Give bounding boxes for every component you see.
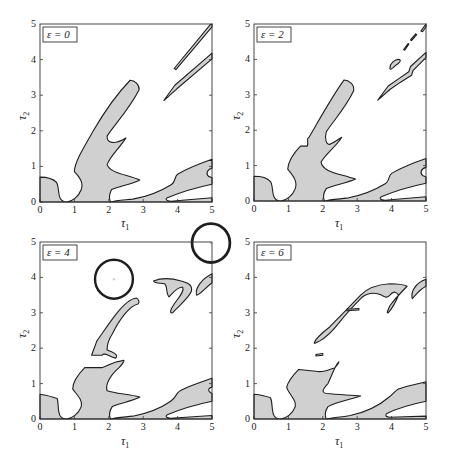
svg-text:4: 4 <box>245 53 250 64</box>
region-middle-sliver <box>164 53 212 100</box>
region-main-finger <box>67 80 140 202</box>
region-right-blob <box>412 279 426 298</box>
svg-text:1: 1 <box>72 421 77 432</box>
figure: ε = 0 0 1 2 3 4 5 0 1 2 3 4 5 τ1 τ2 <box>0 0 449 458</box>
svg-text:0: 0 <box>31 196 36 207</box>
region-lower-left-lobe <box>40 394 67 419</box>
region-lower-left-lobe <box>254 394 281 419</box>
y-axis-label: τ2 <box>15 330 31 338</box>
svg-text:3: 3 <box>31 89 36 100</box>
x-axis-label: τ1 <box>121 216 129 232</box>
panel-eps-4: ε = 4 0 1 2 3 4 5 0 1 2 3 4 5 τ1 τ2 <box>15 236 215 450</box>
plot-area <box>254 24 426 201</box>
plot-area <box>40 24 212 202</box>
panel-eps-0: ε = 0 0 1 2 3 4 5 0 1 2 3 4 5 τ1 τ2 <box>15 18 215 232</box>
svg-text:1: 1 <box>286 203 291 214</box>
x-axis-label: τ1 <box>121 434 129 450</box>
region-dash-1 <box>411 34 417 41</box>
svg-text:4: 4 <box>175 421 180 432</box>
svg-text:3: 3 <box>245 89 250 100</box>
svg-text:0: 0 <box>245 195 250 206</box>
region-hook <box>154 279 192 313</box>
plot-area <box>40 242 212 419</box>
svg-text:1: 1 <box>286 421 291 432</box>
svg-text:3: 3 <box>31 307 36 318</box>
svg-text:5: 5 <box>31 236 36 247</box>
svg-text:1: 1 <box>31 378 36 389</box>
legend-label: ε = 0 <box>47 28 70 40</box>
y-axis-label: τ2 <box>229 330 245 338</box>
svg-text:2: 2 <box>31 125 36 136</box>
svg-text:4: 4 <box>389 421 394 432</box>
svg-text:4: 4 <box>31 54 36 65</box>
svg-text:5: 5 <box>210 421 215 432</box>
svg-text:5: 5 <box>245 18 250 29</box>
svg-text:0: 0 <box>252 421 257 432</box>
region-middle-sliver <box>378 52 426 100</box>
svg-text:5: 5 <box>210 204 215 215</box>
svg-text:3: 3 <box>245 307 250 318</box>
region-small-dash-1 <box>316 354 323 356</box>
svg-text:2: 2 <box>245 342 250 353</box>
region-dash-2 <box>404 43 409 50</box>
svg-text:2: 2 <box>320 421 325 432</box>
legend: ε = 6 <box>257 245 291 260</box>
legend-label: ε = 6 <box>261 246 284 258</box>
svg-text:0: 0 <box>38 421 43 432</box>
region-main-lower <box>281 362 361 419</box>
svg-text:5: 5 <box>31 18 36 29</box>
x-axis-label: τ1 <box>335 216 343 232</box>
legend: ε = 2 <box>257 27 291 42</box>
svg-text:1: 1 <box>31 160 36 171</box>
svg-text:4: 4 <box>31 271 36 282</box>
panel-eps-6: ε = 6 0 1 2 3 4 5 0 1 2 3 4 5 τ1 τ2 <box>229 236 429 450</box>
legend-label: ε = 2 <box>261 28 284 40</box>
svg-text:4: 4 <box>389 203 394 214</box>
svg-text:4: 4 <box>175 204 180 215</box>
svg-text:0: 0 <box>31 413 36 424</box>
svg-text:5: 5 <box>424 421 429 432</box>
region-lower-left-lobe <box>40 177 67 202</box>
svg-text:5: 5 <box>245 236 250 247</box>
svg-text:3: 3 <box>141 421 146 432</box>
legend: ε = 4 <box>43 245 77 260</box>
svg-text:3: 3 <box>141 204 146 215</box>
svg-text:3: 3 <box>355 421 360 432</box>
region-island <box>390 59 400 69</box>
region-lower-left-lobe <box>254 176 281 201</box>
svg-text:3: 3 <box>355 203 360 214</box>
svg-text:1: 1 <box>245 160 250 171</box>
svg-text:0: 0 <box>252 203 257 214</box>
region-upper-band <box>314 284 407 344</box>
y-axis-label: τ2 <box>229 112 245 120</box>
svg-text:2: 2 <box>106 421 111 432</box>
svg-text:0: 0 <box>38 204 43 215</box>
region-main-lower <box>67 360 140 419</box>
svg-text:5: 5 <box>424 203 429 214</box>
region-small-dash-2 <box>347 309 359 311</box>
legend: ε = 0 <box>43 27 77 42</box>
region-upper-finger <box>92 298 139 358</box>
svg-text:1: 1 <box>72 204 77 215</box>
dot <box>113 278 115 280</box>
svg-text:2: 2 <box>245 124 250 135</box>
svg-text:2: 2 <box>320 203 325 214</box>
svg-text:2: 2 <box>106 204 111 215</box>
plot-area <box>254 279 426 419</box>
svg-text:0: 0 <box>245 413 250 424</box>
svg-text:1: 1 <box>245 378 250 389</box>
region-main-finger <box>281 80 356 201</box>
panel-eps-2: ε = 2 0 1 2 3 4 5 0 1 2 3 4 5 τ1 τ2 <box>229 18 429 232</box>
y-axis-label: τ2 <box>15 112 31 120</box>
x-axis-label: τ1 <box>335 434 343 450</box>
region-upper-sliver <box>421 24 426 32</box>
svg-text:4: 4 <box>245 271 250 282</box>
legend-label: ε = 4 <box>47 246 70 258</box>
svg-text:2: 2 <box>31 342 36 353</box>
